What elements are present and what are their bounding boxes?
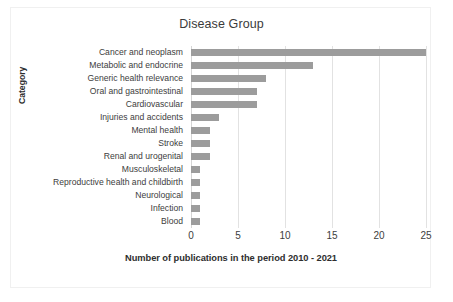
bar-row	[191, 98, 426, 111]
y-axis-label: Oral and gastrointestinal	[11, 85, 187, 98]
x-axis-title: Number of publications in the period 201…	[51, 253, 411, 263]
chart-container: Disease Group Category Cancer and neopla…	[10, 7, 431, 288]
bar-row	[191, 215, 426, 228]
bar	[191, 166, 200, 173]
bar	[191, 192, 200, 199]
bar	[191, 127, 210, 134]
bar-row	[191, 59, 426, 72]
bar-row	[191, 124, 426, 137]
bar	[191, 179, 200, 186]
y-axis-label: Infection	[11, 202, 187, 215]
y-axis-label: Reproductive health and childbirth	[11, 176, 187, 189]
y-axis-label: Metabolic and endocrine	[11, 59, 187, 72]
bar-row	[191, 163, 426, 176]
bar-row	[191, 150, 426, 163]
y-axis-label: Generic health relevance	[11, 72, 187, 85]
x-axis-tick-10: 10	[270, 230, 300, 241]
bar-row	[191, 72, 426, 85]
y-axis-label: Cardiovascular	[11, 98, 187, 111]
bar-row	[191, 46, 426, 59]
x-axis-tick-labels: 0510152025	[191, 230, 426, 246]
bar	[191, 75, 266, 82]
bar-row	[191, 137, 426, 150]
gridline-25	[426, 46, 427, 228]
bar	[191, 88, 257, 95]
y-axis-label: Injuries and accidents	[11, 111, 187, 124]
x-axis-tick-0: 0	[176, 230, 206, 241]
bar-row	[191, 202, 426, 215]
y-axis-tick-labels: Cancer and neoplasmMetabolic and endocri…	[11, 46, 187, 228]
bar-row	[191, 85, 426, 98]
y-axis-label: Stroke	[11, 137, 187, 150]
y-axis-label: Mental health	[11, 124, 187, 137]
y-axis-label: Neurological	[11, 189, 187, 202]
bar-row	[191, 176, 426, 189]
x-axis-tick-15: 15	[317, 230, 347, 241]
bar-row	[191, 189, 426, 202]
bar	[191, 114, 219, 121]
bar-series	[191, 46, 426, 228]
x-axis-tick-25: 25	[411, 230, 441, 241]
bar-row	[191, 111, 426, 124]
y-axis-label: Blood	[11, 215, 187, 228]
bar	[191, 49, 426, 56]
bar	[191, 101, 257, 108]
chart-title: Disease Group	[11, 17, 432, 31]
y-axis-label: Cancer and neoplasm	[11, 46, 187, 59]
bar	[191, 205, 200, 212]
bar	[191, 153, 210, 160]
x-axis-tick-5: 5	[223, 230, 253, 241]
bar	[191, 140, 210, 147]
y-axis-label: Renal and urogenital	[11, 150, 187, 163]
x-axis-tick-20: 20	[364, 230, 394, 241]
bar	[191, 62, 313, 69]
plot-area	[191, 46, 426, 228]
bar	[191, 218, 200, 225]
y-axis-label: Musculoskeletal	[11, 163, 187, 176]
